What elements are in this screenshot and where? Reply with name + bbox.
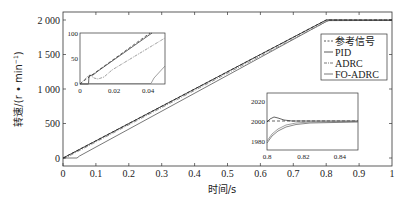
inset2-x-tick: 0.82: [297, 153, 310, 161]
x-tick-label: 0.4: [188, 168, 201, 179]
x-tick-label: 1: [390, 168, 395, 179]
y-axis-label: 转速/(r • min−1): [12, 51, 24, 126]
legend: 参考信号 PID ADRC FO-ADRC: [321, 34, 387, 80]
inset1-y-tick: 50: [71, 55, 79, 63]
legend-label-reference: 参考信号: [335, 35, 375, 47]
x-tick-label: 0.7: [287, 168, 300, 179]
inset-steady-state: 2020 2000 1980 0.8 0.82 0.84: [251, 93, 358, 161]
legend-label-adrc: ADRC: [335, 58, 363, 69]
inset1-x-tick: 0.04: [142, 87, 155, 95]
inset-startup-frame: [80, 33, 165, 84]
inset2-y-tick: 1980: [251, 138, 266, 146]
y-axis-label-end: ): [13, 51, 24, 55]
main-y-tick-labels: 0 500 1 000 1 500 2 000: [38, 15, 61, 164]
y-tick-label: 0: [55, 153, 60, 164]
x-tick-label: 0.6: [254, 168, 267, 179]
svg-text:转速/(r • min−1): 转速/(r • min−1): [12, 51, 24, 126]
y-tick-label: 1 000: [38, 84, 61, 95]
y-tick-label: 2 000: [38, 15, 61, 26]
x-tick-label: 0.1: [90, 168, 103, 179]
inset2-y-tick: 2020: [251, 98, 266, 106]
inset2-x-tick: 0.8: [263, 153, 272, 161]
x-axis-label: 时间/s: [208, 183, 237, 195]
chart-canvas: 0 0.1 0.2 0.3 0.4 0.5 0.6 0.7 0.8 0.9 1 …: [0, 0, 409, 202]
inset-startup: 0 50 100 0 0.02 0.04: [68, 30, 166, 95]
y-tick-label: 1 500: [38, 49, 61, 60]
x-tick-label: 0.5: [221, 168, 234, 179]
x-tick-label: 0.9: [353, 168, 366, 179]
y-axis-label-sup: −1: [12, 55, 19, 64]
main-x-tick-labels: 0 0.1 0.2 0.3 0.4 0.5 0.6 0.7 0.8 0.9 1: [61, 168, 395, 179]
x-tick-label: 0.2: [123, 168, 136, 179]
inset1-y-tick: 100: [68, 30, 79, 38]
legend-label-pid: PID: [335, 47, 351, 58]
x-tick-label: 0: [61, 168, 66, 179]
x-tick-label: 0.3: [155, 168, 168, 179]
x-tick-label: 0.8: [320, 168, 333, 179]
legend-label-fo-adrc: FO-ADRC: [335, 69, 379, 80]
inset2-y-tick: 2000: [251, 118, 266, 126]
y-tick-label: 500: [45, 118, 60, 129]
inset1-x-tick: 0: [78, 87, 82, 95]
y-axis-label-text: 转速/(r • min: [12, 64, 24, 127]
inset2-x-tick: 0.84: [334, 153, 347, 161]
inset1-x-tick: 0.02: [108, 87, 121, 95]
